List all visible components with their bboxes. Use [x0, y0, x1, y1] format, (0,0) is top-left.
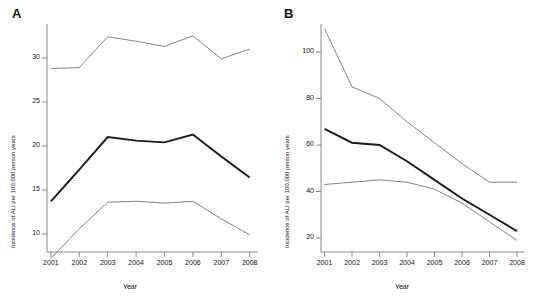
- panel-b-xtick-2008: 2008: [497, 259, 537, 266]
- panel-a-ytick-15: 15: [16, 185, 40, 192]
- panel-a-ytick-30: 30: [16, 53, 40, 60]
- panel-b-ytick-20: 20: [290, 233, 314, 240]
- panel-a-x-axis-title: Year: [110, 283, 150, 290]
- panel-b-x-axis-title: Year: [382, 283, 422, 290]
- panel-a-xtick-2008: 2008: [230, 259, 270, 266]
- panel-a: A Incidence of ALI per 100,000 person ye…: [0, 0, 272, 300]
- panel-a-ytick-25: 25: [16, 97, 40, 104]
- panel-a-plot: [0, 0, 272, 300]
- panel-b-ytick-40: 40: [290, 187, 314, 194]
- panel-a-ytick-10: 10: [16, 229, 40, 236]
- panel-b-ytick-80: 80: [290, 94, 314, 101]
- panel-b-ytick-100: 100: [290, 47, 314, 54]
- panel-b-ytick-60: 60: [290, 140, 314, 147]
- panel-b: B Incidence of ALI per 100,000 person ye…: [272, 0, 541, 300]
- panel-a-ytick-20: 20: [16, 141, 40, 148]
- panel-b-plot: [272, 0, 541, 300]
